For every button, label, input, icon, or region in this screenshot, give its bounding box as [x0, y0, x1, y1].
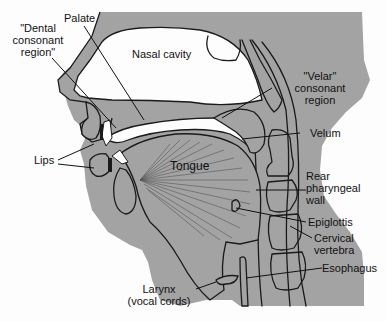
vocal-tract-diagram: Palate "Dental consonant region" Nasal c…	[0, 0, 386, 321]
velar-line-2: consonant	[290, 82, 350, 94]
label-dental-consonant-region: "Dental consonant region"	[8, 22, 68, 58]
rear-line-1: Rear	[306, 170, 360, 182]
label-larynx: Larynx (vocal cords)	[120, 283, 198, 307]
larynx-line-2: (vocal cords)	[120, 295, 198, 307]
rear-line-2: pharyngeal	[306, 182, 360, 194]
dental-line-1: "Dental	[8, 22, 68, 34]
cervical-line-1: Cervical	[314, 232, 354, 244]
lower-tooth-shadow	[108, 158, 112, 172]
label-tongue: Tongue	[170, 160, 209, 172]
label-cervical-vertebra: Cervical vertebra	[314, 232, 354, 256]
nasal-cavity-text: Nasal cavity	[132, 48, 191, 60]
label-esophagus: Esophagus	[322, 262, 377, 274]
label-lips: Lips	[34, 154, 54, 166]
dental-line-3: region"	[8, 46, 68, 58]
label-velar-consonant-region: "Velar" consonant region	[290, 70, 350, 106]
epiglottis-text: Epiglottis	[308, 216, 353, 228]
lower-lip	[90, 154, 111, 177]
dental-line-2: consonant	[8, 34, 68, 46]
label-rear-pharyngeal-wall: Rear pharyngeal wall	[306, 170, 360, 206]
label-epiglottis: Epiglottis	[308, 216, 353, 228]
label-nasal-cavity: Nasal cavity	[132, 48, 191, 60]
label-velum: Velum	[310, 127, 341, 139]
velar-line-3: region	[290, 94, 350, 106]
upper-tooth-shadow	[100, 124, 103, 140]
larynx-line-1: Larynx	[120, 283, 198, 295]
palate-text: Palate	[64, 12, 95, 24]
tongue-text: Tongue	[170, 159, 209, 173]
velar-line-1: "Velar"	[290, 70, 350, 82]
label-palate: Palate	[64, 12, 95, 24]
esophagus-text: Esophagus	[322, 262, 377, 274]
velum-text: Velum	[310, 127, 341, 139]
cervical-line-2: vertebra	[314, 244, 354, 256]
lips-text: Lips	[34, 154, 54, 166]
rear-line-3: wall	[306, 194, 360, 206]
